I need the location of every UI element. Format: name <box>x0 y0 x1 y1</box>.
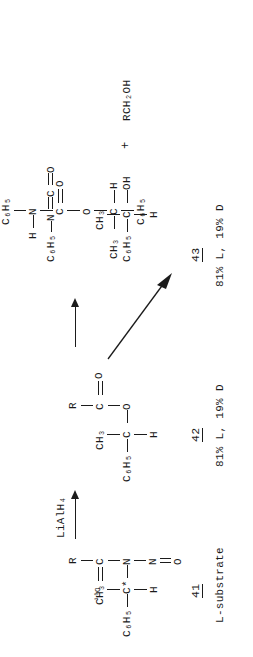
alcohol-ch3: CH₃ <box>95 209 106 230</box>
carbamate-h-on-c: H <box>109 182 120 189</box>
rotated-figure-wrapper: C₆H₅ CH₃ C* H N N O C ¹⁸O R 41 L-substra… <box>0 0 253 657</box>
carbamate-h-on-n: H <box>28 232 39 239</box>
isocyanate-double-bond-co <box>48 173 53 185</box>
carbamate-o-ester: O <box>82 208 93 215</box>
isocyanate-c: C <box>46 190 57 197</box>
reaction-scheme: C₆H₅ CH₃ C* H N N O C ¹⁸O R 41 L-substra… <box>0 0 253 657</box>
carbamate-bond-c-h <box>114 190 115 203</box>
carbamate-bond-o-c <box>94 210 107 211</box>
alcohol-stereo-note: 81% L, 19% D <box>215 204 226 287</box>
alcohol-plus-sign: + <box>121 141 132 149</box>
carbamate-bond-ch3-c <box>114 216 115 229</box>
alcohol-h: H <box>149 211 160 218</box>
carbamate-bond-c-c6h5 <box>121 210 134 211</box>
alcohol-bond-c6h5-c <box>127 219 128 232</box>
isocyanate-c6h5: C₆H₅ <box>46 234 57 262</box>
alcohol-coproduct: RCH₂OH <box>122 80 133 121</box>
carbamate-c: C <box>109 208 120 215</box>
carbamate-ch3: CH₃ <box>109 238 120 259</box>
isocyanate-o: O <box>46 166 57 173</box>
carbamate-bond-n-ccarbonyl <box>40 210 53 211</box>
isocyanate-n: N <box>46 214 57 221</box>
isocyanate-double-bond-nc <box>48 197 53 209</box>
alcohol-bond-c-oh <box>127 190 128 203</box>
alcohol-oh: OH <box>122 176 133 190</box>
isocyanate-bond-c6h5-n <box>51 221 52 232</box>
carbamate-bond-h-n <box>33 215 34 228</box>
alcohol-c6h5: C₆H₅ <box>122 234 133 262</box>
carbamate-c6h5-on-n: C₆H₅ <box>1 197 12 225</box>
carbamate-carbonyl-c: C <box>55 208 66 215</box>
alcohol-c: C <box>122 211 133 218</box>
carbamate-carbonyl-o: O <box>55 180 66 187</box>
carbamate-bond-c-o <box>67 210 80 211</box>
carbamate-bond-n-c6h5 <box>14 210 26 211</box>
alcohol-id-label: 43 <box>190 248 203 262</box>
carbamate-carbonyl-double-bond <box>58 189 63 203</box>
carbamate-c6h5: C₆H₅ <box>136 197 147 225</box>
carbamate-n: N <box>28 208 39 215</box>
